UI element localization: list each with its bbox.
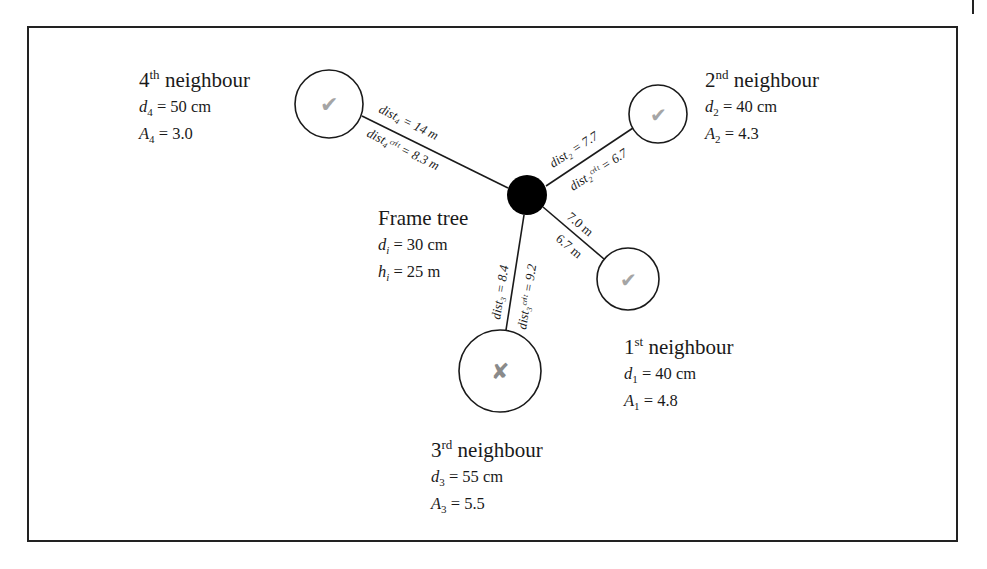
neighbour-3-diameter: d3 = 55 cm [431, 469, 543, 488]
neighbour-1-node: ✔ [597, 248, 659, 310]
frame-tree-height: hi = 25 m [378, 264, 468, 283]
dist-crit-label-1: 6.7 m [553, 231, 585, 262]
neighbour-3-node: ✘ [459, 330, 541, 412]
neighbour-2-node: ✔ [629, 85, 687, 143]
check-icon: ✔ [320, 92, 338, 117]
check-icon: ✔ [650, 104, 667, 126]
frame-tree-title: Frame tree [378, 208, 468, 229]
neighbour-3-title: 3rd neighbour [431, 438, 543, 461]
neighbour-2-area: A2 = 4.3 [705, 126, 819, 145]
neighbour-3-info: 3rd neighbour d3 = 55 cm A3 = 5.5 [431, 438, 543, 515]
neighbour-2-info: 2nd neighbour d2 = 40 cm A2 = 4.3 [705, 68, 819, 145]
neighbour-2-diameter: d2 = 40 cm [705, 99, 819, 118]
check-icon: ✔ [620, 269, 637, 291]
neighbour-4-node: ✔ [295, 70, 363, 138]
neighbour-1-area: A1 = 4.8 [624, 393, 734, 412]
neighbour-1-title: 1st neighbour [624, 335, 734, 358]
frame-tree-diameter: di = 30 cm [378, 237, 468, 256]
neighbour-3-area: A3 = 5.5 [431, 496, 543, 515]
neighbour-4-title: 4th neighbour [139, 68, 250, 91]
neighbour-4-diameter: d4 = 50 cm [139, 99, 250, 118]
dist-crit-label-3: dist₃ᶜʳⁱᵗ = 9.2 [514, 263, 539, 331]
neighbour-1-info: 1st neighbour d1 = 40 cm A1 = 4.8 [624, 335, 734, 412]
neighbour-4-area: A4 = 3.0 [139, 126, 250, 145]
neighbour-2-title: 2nd neighbour [705, 68, 819, 91]
neighbour-1-diameter: d1 = 40 cm [624, 366, 734, 385]
neighbour-4-info: 4th neighbour d4 = 50 cm A4 = 3.0 [139, 68, 250, 145]
frame-tree-node [507, 175, 547, 215]
cross-icon: ✘ [491, 359, 509, 384]
frame-tree-info: Frame tree di = 30 cm hi = 25 m [378, 208, 468, 283]
